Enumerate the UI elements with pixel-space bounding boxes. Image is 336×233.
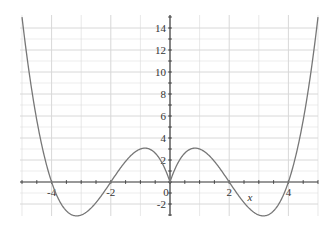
x-tick-label: 2 xyxy=(226,186,232,198)
x-axis-label: x xyxy=(246,191,252,203)
y-tick-label: 8 xyxy=(161,88,167,100)
function-plot: -4-2024-22468101214x xyxy=(0,0,336,233)
y-tick-label: 6 xyxy=(161,110,167,122)
y-tick-label: -2 xyxy=(157,198,166,210)
y-tick-label: 10 xyxy=(155,66,167,78)
y-tick-label: 14 xyxy=(155,22,167,34)
y-tick-label: 12 xyxy=(155,44,166,56)
x-tick-label: 0 xyxy=(163,186,169,198)
y-tick-label: 4 xyxy=(161,132,167,144)
